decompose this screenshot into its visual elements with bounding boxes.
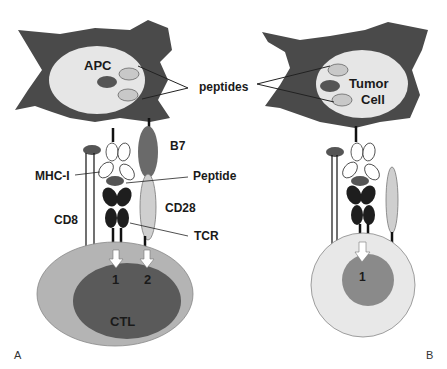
tcr-domain [351, 205, 363, 225]
tumor-label-line1: Tumor [349, 76, 388, 91]
signal-label-1: 1 [359, 270, 366, 284]
signal-label-1: 1 [112, 272, 119, 287]
tcr-label: TCR [194, 229, 219, 243]
light-peptide-icon [328, 64, 348, 76]
peptide-pointer [126, 177, 188, 183]
mhc-pointer [75, 172, 100, 175]
mhc-domain [106, 143, 118, 161]
panel-letter-b: B [426, 349, 433, 361]
dark-peptide-icon [97, 76, 117, 88]
ctl-label: CTL [110, 314, 135, 329]
cd8-head [326, 147, 344, 157]
dark-peptide-icon [320, 80, 340, 92]
b7-label: B7 [170, 139, 186, 153]
cd8-label: CD8 [54, 213, 78, 227]
b7-molecule [138, 126, 158, 178]
tcr-domain [117, 208, 129, 228]
mhc-domain [362, 142, 377, 162]
panel-letter-a: A [14, 349, 22, 361]
tumor-label-line2: Cell [361, 92, 385, 107]
panel-b: Tumor Cell 1 B [257, 22, 433, 361]
peptides-label: peptides [199, 80, 249, 94]
cd28-molecule [386, 167, 398, 233]
tcell-b-inner [342, 254, 394, 306]
presented-peptide [106, 176, 124, 186]
panel-a: APC CTL [14, 20, 237, 361]
signal-label-2: 2 [144, 272, 151, 287]
light-peptide-icon [118, 89, 138, 101]
tcr-domain [105, 208, 117, 228]
diagram-canvas: APC CTL [0, 0, 447, 369]
light-peptide-icon [119, 68, 139, 80]
cd28-molecule [140, 174, 156, 240]
peptide-label: Peptide [193, 169, 237, 183]
mhc-domain [351, 143, 363, 161]
mhc-domain [117, 142, 132, 162]
tcr-pointer [130, 223, 188, 236]
presented-peptide [351, 176, 369, 186]
cd28-label: CD28 [165, 201, 196, 215]
light-peptide-icon [332, 94, 352, 106]
mhc-label: MHC-I [35, 169, 70, 183]
apc-label: APC [84, 58, 112, 73]
tcr-domain [363, 205, 375, 225]
